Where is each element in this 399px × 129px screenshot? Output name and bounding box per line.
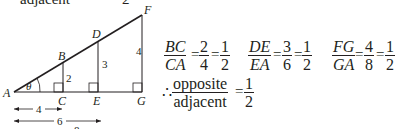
point-b-label: B: [58, 49, 66, 63]
right-angle-e-icon: [89, 83, 98, 92]
dimension-ac-label: 4: [36, 103, 42, 115]
dimension-ag: 8: [74, 124, 80, 129]
point-a-label: A: [2, 86, 11, 100]
dimension-ac: 4: [14, 103, 62, 115]
point-c-label: C: [58, 94, 67, 108]
hypotenuse-line: [14, 15, 142, 92]
side-fg-label: 4: [136, 45, 142, 57]
fraction-1-2: 1 2: [220, 38, 230, 73]
point-f-label: F: [143, 3, 152, 17]
point-e-label: E: [92, 94, 101, 108]
point-g-label: G: [137, 94, 146, 108]
side-de-label: 3: [102, 58, 108, 70]
fraction-2-4: 2 4: [199, 38, 209, 73]
point-d-label: D: [91, 27, 101, 41]
dimension-ag-label: 8: [74, 124, 80, 129]
header-adjacent-fragment: adjacent: [20, 0, 71, 7]
dimension-ae-label: 6: [57, 115, 63, 127]
header-two-fragment: 2: [122, 0, 130, 7]
fraction-result: 1 2: [244, 75, 254, 110]
dimension-ae: 6: [14, 115, 101, 127]
fraction-bc-ca: BC CA: [164, 38, 186, 73]
angle-arc-icon: [37, 78, 40, 92]
therefore-symbol: ∴: [162, 83, 172, 102]
fraction-de-ea: DE EA: [248, 38, 271, 73]
fraction-fg-ga: FG GA: [332, 38, 355, 73]
fraction-opposite-adjacent: opposite adjacent: [172, 75, 228, 110]
fraction-1-2c: 1 2: [385, 38, 395, 73]
side-bc-label: 2: [66, 72, 72, 84]
fraction-1-2b: 1 2: [302, 38, 312, 73]
angle-theta-label: θ: [26, 80, 32, 92]
fraction-3-6: 3 6: [282, 38, 292, 73]
right-angle-c-icon: [54, 83, 63, 92]
right-angle-g-icon: [133, 83, 142, 92]
fraction-4-8: 4 8: [364, 38, 374, 73]
